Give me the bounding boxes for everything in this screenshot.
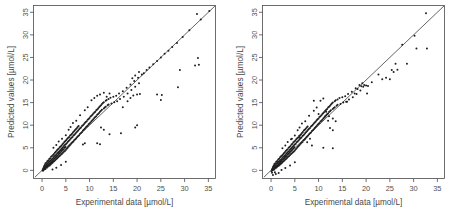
data-point	[354, 93, 356, 95]
data-point	[122, 90, 124, 92]
data-point	[385, 77, 387, 79]
data-point	[109, 133, 111, 135]
data-point	[306, 141, 308, 143]
data-point	[367, 85, 369, 87]
y-tick-label: 10	[22, 121, 31, 129]
data-point	[84, 109, 86, 111]
data-point	[116, 100, 118, 102]
data-point	[64, 146, 66, 148]
data-point	[291, 138, 293, 140]
data-point	[123, 96, 125, 98]
data-point	[105, 106, 107, 108]
data-point	[278, 172, 280, 174]
data-point	[134, 126, 136, 128]
data-point	[356, 93, 358, 95]
y-axis-label: Predicted values [µmol/L]	[236, 46, 245, 138]
data-point	[335, 120, 337, 122]
data-point	[335, 99, 337, 101]
data-point	[138, 82, 140, 84]
data-point	[160, 56, 162, 58]
data-point	[110, 103, 112, 105]
x-tick-label: 5	[293, 184, 297, 193]
data-point	[101, 109, 103, 111]
data-point	[197, 57, 199, 59]
data-point	[119, 98, 121, 100]
data-point	[133, 80, 135, 82]
data-point	[126, 87, 128, 89]
data-point	[316, 107, 318, 109]
x-tick-label: 25	[157, 184, 165, 193]
data-point	[325, 111, 327, 113]
data-point	[272, 174, 274, 176]
y-tick-label: 10	[251, 121, 260, 129]
x-tick-label: 15	[338, 184, 346, 193]
data-point	[136, 93, 138, 95]
data-point	[324, 115, 326, 117]
data-point	[161, 94, 163, 96]
data-point	[103, 92, 105, 94]
data-point	[103, 129, 105, 131]
data-point	[61, 138, 63, 140]
data-point	[93, 97, 95, 99]
data-point	[426, 47, 428, 49]
data-point	[103, 101, 105, 103]
data-point	[79, 114, 81, 116]
data-point	[311, 145, 313, 147]
data-point	[55, 144, 57, 146]
scatter-panel-left: 0510152025303505101520253035Experimental…	[0, 0, 229, 223]
data-point	[72, 122, 74, 124]
y-tick-label: 30	[22, 31, 31, 39]
y-tick-label: 20	[251, 76, 260, 84]
x-tick-label: 30	[180, 184, 188, 193]
data-point	[87, 106, 89, 108]
data-point	[271, 172, 273, 174]
y-tick-label: 20	[22, 76, 31, 84]
x-tick-label: 10	[314, 184, 322, 193]
data-point	[342, 102, 344, 104]
data-point	[99, 93, 101, 95]
data-point	[395, 63, 397, 65]
data-point	[152, 63, 154, 65]
data-point	[313, 110, 315, 112]
data-point	[297, 129, 299, 131]
data-point	[182, 36, 184, 38]
x-axis-label: Experimental data [µmol/L]	[305, 198, 403, 207]
data-point	[329, 127, 331, 129]
data-point	[337, 104, 339, 106]
data-point	[361, 82, 363, 84]
data-point	[115, 95, 117, 97]
x-tick-label: 35	[204, 184, 212, 193]
figure-container: 0510152025303505101520253035Experimental…	[0, 0, 459, 223]
data-point	[109, 93, 111, 95]
data-point	[171, 46, 173, 48]
data-point	[377, 74, 379, 76]
data-point	[52, 147, 54, 149]
data-point	[113, 101, 115, 103]
data-point	[137, 77, 139, 79]
data-point	[332, 147, 334, 149]
data-point	[96, 95, 98, 97]
data-point	[127, 93, 129, 95]
data-point	[381, 78, 383, 80]
data-point	[322, 98, 324, 100]
data-point	[287, 141, 289, 143]
data-point	[393, 71, 395, 73]
data-point	[134, 86, 136, 88]
data-point	[134, 75, 136, 77]
data-point	[289, 164, 291, 166]
data-point	[131, 77, 133, 79]
data-point	[332, 117, 334, 119]
data-point	[90, 99, 92, 101]
data-point	[346, 101, 348, 103]
data-point	[100, 126, 102, 128]
data-point	[338, 97, 340, 99]
data-point	[146, 69, 148, 71]
y-tick-label: 25	[22, 53, 31, 61]
data-point	[396, 69, 398, 71]
y-tick-label: 35	[22, 8, 31, 16]
data-point	[208, 10, 210, 12]
y-tick-label: 0	[22, 168, 31, 172]
data-point	[60, 164, 62, 166]
data-point	[347, 93, 349, 95]
data-point	[357, 88, 359, 90]
